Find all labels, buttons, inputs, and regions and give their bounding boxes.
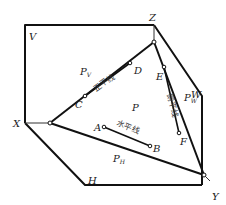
plane-h-label: H [87, 175, 97, 186]
axis-z-label: Z [148, 12, 157, 23]
plane-p-label: P [131, 102, 139, 113]
trace-pv-label: PV [79, 66, 92, 78]
plane-v-label: V [29, 31, 38, 42]
point-e-label: E [155, 71, 164, 82]
plane-p-traces [50, 42, 204, 175]
point-d-label: D [133, 65, 142, 76]
axis-y-label: Y [212, 191, 220, 202]
axis-x-label: X [12, 118, 21, 129]
frontal-line-label: 正平线 [91, 71, 116, 93]
trace-ph-label: PH [112, 153, 126, 165]
projection-diagram: V H W Z X Y PV PH PW P A B C D E F 正平线 侧… [0, 0, 226, 205]
point-b-label: B [152, 143, 160, 154]
point-c-label: C [75, 99, 83, 110]
vertices [48, 40, 206, 177]
point-f-label: F [179, 136, 188, 147]
point-a-label: A [93, 122, 101, 133]
